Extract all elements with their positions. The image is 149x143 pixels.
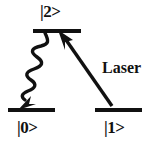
spontaneous-emission-wavy-arrow — [18, 33, 48, 110]
laser-label: Laser — [102, 60, 141, 76]
level-label-ground: |0> — [17, 119, 37, 136]
level-label-excited: |2> — [40, 3, 60, 20]
level-label-metastable: |1> — [104, 119, 124, 136]
energy-level-diagram: |2> |0> |1> Laser — [0, 0, 149, 143]
